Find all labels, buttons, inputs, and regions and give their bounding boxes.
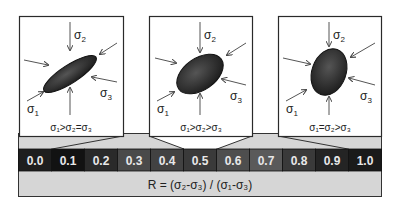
r-value-scale: 0.00.10.20.30.40.50.60.70.80.91.0 (19, 149, 382, 171)
scale-value: 0.9 (324, 154, 341, 168)
panel-triaxial: σ2 σ3 σ1 σ₁>σ₂>σ₃ (150, 17, 253, 137)
scale-value: 0.5 (192, 154, 209, 168)
scale-value: 0.7 (258, 154, 275, 168)
scale-value: 0.3 (126, 154, 143, 168)
condition-label: σ₁>σ₂>σ₃ (180, 122, 222, 133)
r-formula: R = (σ₂-σ₃) / (σ₁-σ₃) (148, 178, 252, 192)
scale-value: 0.8 (291, 154, 308, 168)
panel-prolate: σ2 σ3 σ1 σ₁>σ₂=σ₃ (20, 17, 124, 137)
condition-label: σ₁=σ₂>σ₃ (309, 122, 351, 133)
stress-ratio-figure: σ2 σ3 σ1 σ₁>σ₂=σ₃ σ2 σ3 σ1 σ₁>σ₂>σ₃ (0, 0, 396, 204)
scale-value: 0.4 (159, 154, 176, 168)
scale-value: 0.6 (225, 154, 242, 168)
scale-value: 1.0 (357, 154, 374, 168)
scale-value: 0.0 (27, 154, 44, 168)
panel-oblate: σ2 σ3 σ1 σ₁=σ₂>σ₃ (279, 17, 382, 137)
scale-value: 0.2 (93, 154, 110, 168)
scale-value: 0.1 (60, 154, 77, 168)
condition-label: σ₁>σ₂=σ₃ (50, 122, 92, 133)
